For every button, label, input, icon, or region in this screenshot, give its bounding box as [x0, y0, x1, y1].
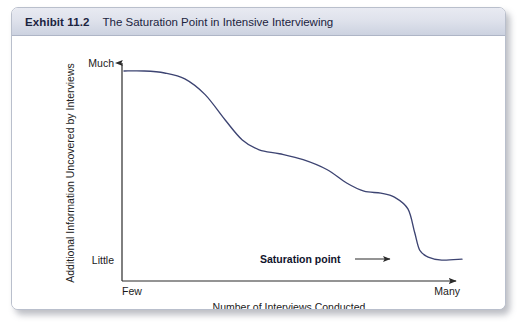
exhibit-caption-bar: Exhibit 11.2 The Saturation Point in Int… [12, 8, 505, 36]
exhibit-title: The Saturation Point in Intensive Interv… [102, 16, 333, 28]
x-axis-tick-many: Many [434, 285, 460, 297]
exhibit-figure-card: Exhibit 11.2 The Saturation Point in Int… [11, 7, 506, 310]
exhibit-number: Exhibit 11.2 [25, 16, 89, 28]
chart-plot-area: Much Little Few Many Additional Informat… [12, 36, 505, 310]
y-axis-tick-little: Little [92, 254, 114, 266]
y-axis-title: Additional Information Uncovered by Inte… [64, 63, 76, 282]
saturation-point-label: Saturation point [260, 253, 341, 265]
saturation-curve-line [124, 71, 462, 260]
y-axis-tick-much: Much [88, 57, 114, 69]
saturation-point-line-chart: Much Little Few Many Additional Informat… [12, 36, 506, 310]
x-axis-tick-few: Few [122, 285, 142, 297]
x-axis-title: Number of Interviews Conducted [213, 301, 366, 310]
